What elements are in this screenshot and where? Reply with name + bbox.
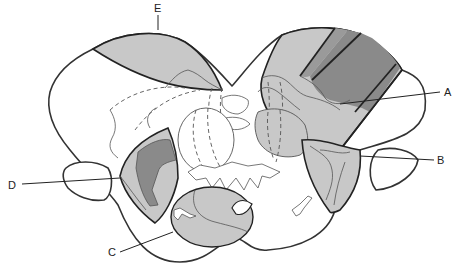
label-E: E (154, 2, 161, 14)
right-oval (370, 148, 418, 190)
label-A: A (444, 86, 452, 98)
label-D: D (8, 179, 16, 191)
brainstem-diagram: A B C D E (0, 0, 459, 272)
left-nucleus (178, 108, 234, 172)
region-C (171, 187, 253, 247)
label-C: C (108, 246, 116, 258)
label-B: B (437, 154, 444, 166)
